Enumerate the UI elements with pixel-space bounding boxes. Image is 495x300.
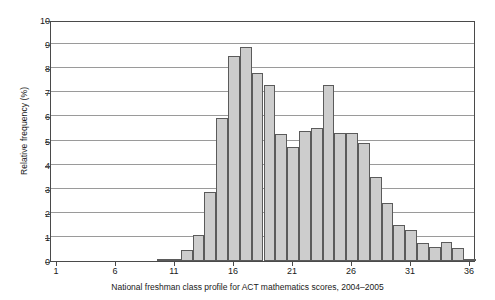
x-tick-label: 36: [454, 266, 484, 277]
x-tick-mark: [233, 262, 234, 266]
x-tick-label: 1: [41, 266, 71, 277]
histogram-figure: Relative frequency (%) 012345678910 1611…: [0, 0, 495, 300]
x-tick-label: 21: [277, 266, 307, 277]
x-tick-mark: [351, 262, 352, 266]
x-tick-mark: [410, 262, 411, 266]
figure-caption: National freshman class profile for ACT …: [0, 282, 495, 293]
x-tick-label: 6: [100, 266, 130, 277]
x-tick-label: 26: [336, 266, 366, 277]
x-tick-mark: [469, 262, 470, 266]
x-axis-ticks: 16111621263136: [0, 0, 495, 300]
x-tick-mark: [174, 262, 175, 266]
x-tick-mark: [292, 262, 293, 266]
x-tick-label: 11: [159, 266, 189, 277]
x-tick-label: 31: [395, 266, 425, 277]
x-tick-mark: [56, 262, 57, 266]
x-tick-mark: [115, 262, 116, 266]
x-tick-label: 16: [218, 266, 248, 277]
